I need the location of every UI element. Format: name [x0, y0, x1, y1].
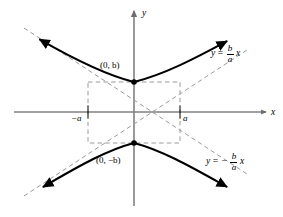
asymptote-positive-equation: y = b a x [211, 44, 240, 64]
x-axis-label: x [271, 108, 275, 118]
eq-pos-fraction: b a [227, 44, 234, 64]
lower-vertex-dot [131, 140, 137, 146]
eq-neg-y: y [206, 157, 210, 167]
figure-canvas [0, 0, 283, 217]
axes-group [14, 11, 266, 206]
tick-label-negative-a: −a [71, 114, 82, 123]
y-axis-label: y [142, 9, 146, 19]
hyperbola-figure: y x (0, b) (0, −b) −a a y = b a x y = − … [0, 0, 283, 217]
eq-neg-fraction: b a [230, 152, 237, 172]
upper-vertex-label: (0, b) [100, 61, 120, 70]
asymptote-negative-equation: y = − b a x [206, 152, 244, 172]
tick-label-positive-a: a [183, 114, 188, 123]
eq-pos-y: y [211, 49, 215, 59]
asymptote-negative-slope [24, 50, 247, 196]
eq-pos-x: x [236, 49, 240, 59]
upper-vertex-dot [131, 79, 137, 85]
eq-neg-minus: − [221, 157, 228, 167]
eq-neg-equals: = [212, 157, 219, 167]
eq-pos-numerator: b [227, 44, 234, 54]
eq-neg-numerator: b [231, 152, 238, 162]
eq-neg-denominator: a [231, 163, 238, 173]
eq-pos-denominator: a [227, 55, 234, 65]
eq-neg-x: x [240, 157, 244, 167]
eq-pos-equals: = [217, 49, 224, 59]
lower-vertex-label: (0, −b) [96, 156, 121, 165]
